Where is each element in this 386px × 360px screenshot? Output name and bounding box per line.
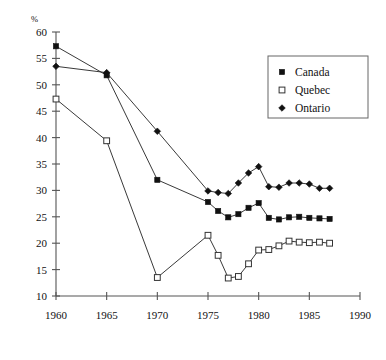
legend-item-label: Quebec [295, 84, 330, 96]
data-point-open-square [276, 243, 282, 249]
data-point-filled-square [327, 216, 332, 221]
x-axis-tick-label: 1960 [45, 309, 68, 321]
data-point-open-square [266, 247, 272, 253]
y-axis-tick-label: 35 [36, 158, 48, 170]
data-point-open-square [317, 239, 323, 245]
data-point-filled-square [297, 214, 302, 219]
x-axis-tick-label: 1965 [96, 309, 119, 321]
data-point-open-square [246, 261, 252, 267]
data-point-filled-diamond [215, 189, 222, 196]
data-point-filled-square [307, 215, 312, 220]
y-axis-unit-label: % [31, 14, 38, 24]
data-point-open-square [53, 96, 59, 102]
y-axis-tick-label: 15 [36, 264, 48, 276]
legend-item-label: Ontario [295, 102, 330, 114]
data-point-filled-square [317, 216, 322, 221]
x-axis-tick-labels: 1960196519701975198019851990 [45, 309, 372, 321]
data-point-filled-diamond [316, 185, 323, 192]
data-point-open-square [279, 87, 285, 93]
data-point-open-square [296, 239, 302, 245]
data-point-filled-square [286, 215, 291, 220]
data-point-filled-square [205, 199, 210, 204]
data-point-filled-square [266, 215, 271, 220]
series-line [56, 99, 330, 278]
data-point-filled-diamond [286, 180, 293, 187]
data-point-filled-square [279, 69, 284, 74]
data-point-open-square [154, 275, 160, 281]
y-axis-tick-label: 25 [36, 211, 48, 223]
y-axis-tick-label: 10 [36, 290, 48, 302]
data-point-filled-square [256, 200, 261, 205]
data-point-filled-square [276, 217, 281, 222]
legend-item-label: Canada [295, 66, 329, 78]
x-axis-tick-label: 1970 [146, 309, 169, 321]
series-quebec [53, 96, 332, 281]
data-point-filled-diamond [266, 183, 273, 190]
data-point-open-square [215, 252, 221, 258]
data-point-filled-square [226, 215, 231, 220]
data-point-open-square [104, 138, 110, 144]
data-point-open-square [205, 232, 211, 238]
x-axis-tick-label: 1980 [248, 309, 271, 321]
y-axis-tick-label: 55 [36, 52, 48, 64]
chart-legend: CanadaQuebecOntario [268, 56, 368, 118]
chart-container: 1015202530354045505560 19601965197019751… [0, 0, 386, 360]
data-point-filled-square [246, 205, 251, 210]
data-point-open-square [225, 275, 231, 281]
data-point-filled-diamond [255, 163, 262, 170]
data-point-filled-diamond [306, 181, 313, 188]
data-point-open-square [286, 238, 292, 244]
data-point-filled-diamond [53, 63, 60, 70]
y-axis-tick-label: 30 [36, 184, 48, 196]
x-axis-tick-label: 1985 [298, 309, 321, 321]
data-point-open-square [306, 240, 312, 246]
y-axis-tick-label: 60 [36, 26, 48, 38]
y-axis-tick-label: 50 [36, 79, 48, 91]
data-point-filled-diamond [296, 180, 303, 187]
data-point-filled-diamond [276, 184, 283, 191]
line-chart: 1015202530354045505560 19601965197019751… [0, 0, 386, 360]
data-point-filled-square [236, 212, 241, 217]
y-axis-tick-label: 45 [36, 105, 48, 117]
data-point-open-square [256, 247, 262, 253]
y-axis-tick-labels: 1015202530354045505560 [36, 26, 48, 302]
data-point-filled-square [155, 177, 160, 182]
data-point-open-square [236, 274, 242, 280]
x-axis-tick-label: 1990 [349, 309, 372, 321]
data-point-filled-square [53, 44, 58, 49]
x-axis-tick-label: 1975 [197, 309, 220, 321]
data-point-open-square [327, 240, 333, 246]
data-point-filled-square [216, 208, 221, 213]
y-axis-tick-label: 40 [36, 132, 48, 144]
data-point-filled-diamond [326, 185, 333, 192]
y-axis-tick-label: 20 [36, 237, 48, 249]
